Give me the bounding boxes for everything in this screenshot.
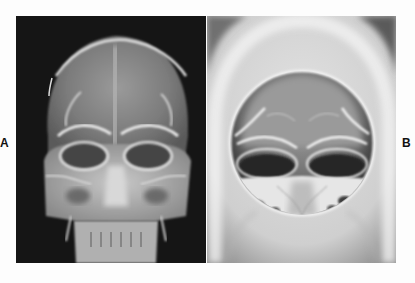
panel-b-cone-down-radiograph <box>207 16 396 263</box>
panel-label-a: A <box>0 136 9 150</box>
skull-xray-frontal-image <box>16 16 206 263</box>
panel-a-skull-radiograph <box>16 16 206 263</box>
panel-label-b: B <box>402 136 411 150</box>
skull-xray-cone-down-image <box>207 16 396 263</box>
figure: A B <box>0 0 415 283</box>
